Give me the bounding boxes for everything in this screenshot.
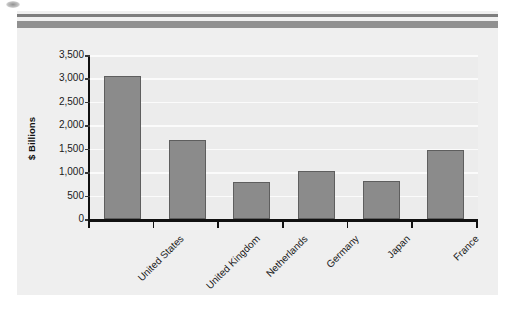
x-axis-category-label: United Kingdom [204,233,262,291]
bar [363,181,400,219]
bars-group [90,55,478,219]
figure-panel: $ Billions 05001,0001,5002,0002,5003,000… [17,11,498,295]
y-axis-tick-label: 3,000 [37,73,84,83]
bar-chart: $ Billions 05001,0001,5002,0002,5003,000… [17,31,498,295]
x-axis-category-label: Japan [385,233,412,260]
scan-artifact-speck [6,1,20,8]
y-axis-tick-label: 3,500 [37,50,84,60]
bar [427,150,464,219]
y-axis-tick-label: 2,000 [37,120,84,130]
y-axis-tick-label: 1,000 [37,167,84,177]
bar [298,171,335,219]
x-axis-category-label: France [451,233,481,263]
y-axis-tick-label: 2,500 [37,97,84,107]
y-axis-tick-label: 0 [37,214,84,224]
x-axis-category-labels: United StatesUnited KingdomNetherlandsGe… [17,227,498,295]
plot-area [88,55,478,219]
bar [104,76,141,219]
y-axis-tick-label: 500 [37,191,84,201]
x-axis-category-label: Germany [324,233,361,270]
bar [169,140,206,219]
header-rule-thick [17,21,498,28]
bar [233,182,270,219]
y-axis-tick-labels: 05001,0001,5002,0002,5003,0003,500 [37,31,84,221]
y-axis-title-text: $ Billions [27,116,38,159]
header-rule-thin [17,14,498,17]
x-axis-category-label: Netherlands [263,233,309,279]
y-axis-tick-label: 1,500 [37,144,84,154]
x-axis-category-label: United States [136,233,186,283]
